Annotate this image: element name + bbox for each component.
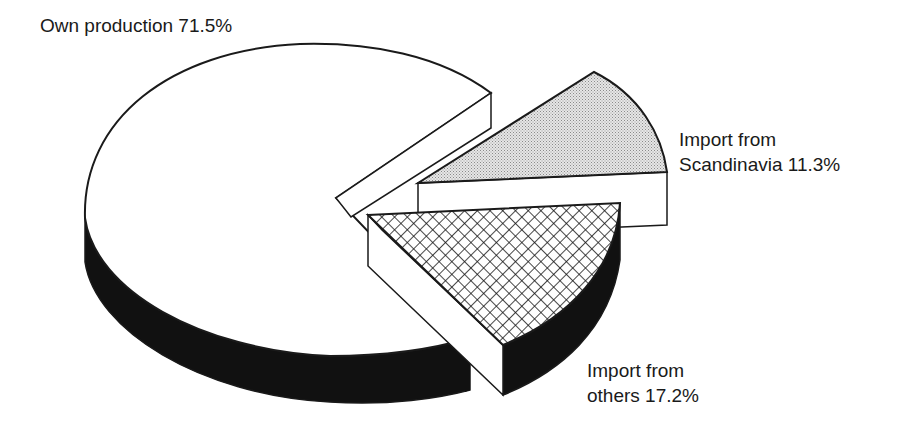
label-scandinavia-line2: Scandinavia 11.3% — [679, 153, 840, 177]
label-others-line1: Import from — [587, 359, 684, 383]
label-scandinavia-line1: Import from — [679, 128, 776, 152]
label-own-production: Own production 71.5% — [40, 14, 232, 38]
label-others-line2: others 17.2% — [587, 384, 699, 408]
pie-chart — [0, 0, 911, 425]
